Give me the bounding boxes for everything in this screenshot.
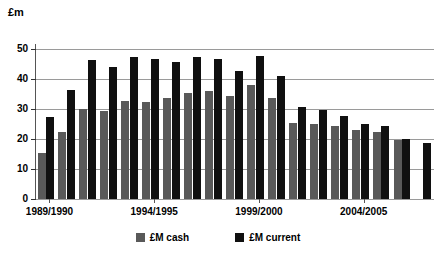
bar-cash [205,91,213,199]
y-axis-tick-label: 40 [2,74,28,84]
bar-cash [289,123,297,200]
legend-swatch-icon [235,233,244,242]
x-axis-tick [364,199,365,203]
legend-item-current: £M current [235,232,300,243]
legend-item-cash: £M cash [136,232,189,243]
bar-current [67,90,75,200]
x-axis-tick [49,199,50,203]
bar-current [423,143,431,199]
y-axis-tick-label: 0 [2,194,28,204]
bar-current [340,116,348,199]
bar-current [361,124,369,199]
bar-chart: £m 50403020100 1989/19901994/19951999/20… [0,0,436,257]
x-axis-tick-label: 1999/2000 [228,206,290,217]
bar-current [277,76,285,199]
bar-current [214,59,222,199]
bar-current [319,110,327,199]
bar-current [235,71,243,199]
legend-label: £M cash [150,232,189,243]
bar-cash [38,153,46,199]
bar-current [151,59,159,199]
bar-cash [121,101,129,199]
bar-current [298,107,306,199]
bar-cash [226,96,234,199]
bar-current [402,139,410,199]
bar-cash [373,132,381,199]
bar-cash [352,130,360,199]
x-axis-tick-labels: 1989/19901994/19951999/20002004/2005 [0,206,436,222]
bar-cash [184,93,192,199]
y-axis-tick [31,49,36,50]
bars-container [36,49,434,199]
chart-legend: £M cash£M current [0,229,436,245]
x-axis-tick [154,199,155,203]
bar-current [46,117,54,200]
x-axis-tick-label: 1989/1990 [18,206,80,217]
bar-current [88,60,96,199]
legend-swatch-icon [136,233,145,242]
bar-cash [268,98,276,199]
y-axis-tick-label: 30 [2,104,28,114]
y-axis-tick [31,169,36,170]
bar-current [193,57,201,200]
x-axis-tick-label: 1994/1995 [123,206,185,217]
bar-cash [100,111,108,199]
bar-current [256,56,264,199]
y-axis-tick-label: 10 [2,164,28,174]
x-axis-tick [259,199,260,203]
bar-current [109,67,117,199]
x-axis-tick-label: 2004/2005 [333,206,395,217]
y-axis-tick-label: 20 [2,134,28,144]
bar-current [381,126,389,199]
y-axis-tick [31,79,36,80]
plot-area [36,49,434,199]
bar-cash [310,124,318,199]
y-axis-tick [31,139,36,140]
bar-cash [58,132,66,199]
y-axis-tick [31,199,36,200]
bar-cash [163,98,171,199]
y-axis-tick [31,109,36,110]
legend-label: £M current [249,232,300,243]
bar-current [130,57,138,199]
bar-current [172,62,180,199]
bar-cash [331,126,339,199]
bar-cash [142,102,150,199]
bar-cash [394,140,402,199]
y-axis-tick-label: 50 [2,44,28,54]
gridline [36,199,434,200]
bar-cash [79,109,87,199]
bar-cash [247,85,255,199]
